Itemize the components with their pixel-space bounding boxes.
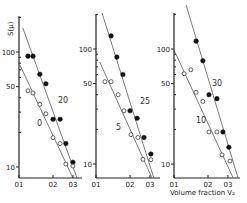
x-tick-label: 01	[170, 181, 179, 189]
open-data-point	[116, 93, 120, 97]
open-data-point	[64, 162, 68, 166]
open-data-point	[129, 133, 133, 137]
x-tick-label: 02	[126, 181, 135, 189]
figure: 1005010010203200S(µ)10050100102032551005…	[0, 0, 247, 203]
y-tick-label: 10	[161, 161, 170, 169]
filled-data-point	[142, 135, 147, 140]
open-data-point	[201, 99, 205, 103]
open-data-point	[189, 68, 193, 72]
open-data-point	[51, 136, 55, 140]
x-tick-label: 03	[68, 181, 77, 189]
open-data-point	[122, 109, 126, 113]
x-tick-label: 01	[92, 181, 101, 189]
y-tick-label: 50	[161, 80, 170, 88]
filled-data-point	[58, 117, 63, 122]
x-tick-label: 02	[49, 181, 58, 189]
x-tick-label: 02	[204, 181, 213, 189]
open-data-point	[103, 80, 107, 84]
y-tick-label: 100	[79, 46, 92, 54]
filled-data-point	[207, 92, 212, 97]
open-data-point	[31, 91, 35, 95]
filled-data-point	[128, 109, 133, 114]
filled-data-point	[227, 145, 232, 150]
open-data-point	[38, 102, 42, 106]
filled-data-point	[135, 116, 140, 121]
open-data-point	[71, 164, 75, 168]
filled-data-point	[115, 55, 120, 60]
fit-line	[174, 50, 233, 178]
filled-data-point	[121, 72, 126, 77]
filled-data-point	[215, 96, 220, 101]
filled-data-point	[194, 39, 199, 44]
x-tick-label: 01	[15, 181, 24, 189]
x-axis-label: Volume fraction V₂	[170, 189, 235, 197]
open-data-point	[194, 90, 198, 94]
open-data-point	[207, 130, 211, 134]
log-log-scatter-panels: 1005010010203200S(µ)10050100102032551005…	[0, 0, 247, 203]
y-tick-label: 50	[6, 83, 15, 91]
open-data-point	[182, 72, 186, 76]
filled-data-point	[31, 54, 36, 59]
fit-line	[23, 28, 77, 178]
x-tick-label: 03	[223, 181, 232, 189]
filled-data-point	[38, 72, 43, 77]
open-data-point	[44, 112, 48, 116]
series-label: 20	[58, 96, 68, 105]
series-label: 10	[196, 116, 206, 125]
y-tick-label: 50	[83, 80, 92, 88]
open-data-point	[26, 89, 30, 93]
filled-data-point	[64, 141, 69, 146]
filled-data-point	[221, 130, 226, 135]
open-data-point	[228, 159, 232, 163]
series-label: 25	[140, 97, 150, 106]
filled-data-point	[44, 81, 49, 86]
x-tick-label: 03	[145, 181, 154, 189]
filled-data-point	[109, 34, 114, 39]
y-tick-label: 100	[157, 46, 170, 54]
y-tick-label: 10	[6, 164, 15, 172]
y-axis-label: S(µ)	[7, 21, 15, 36]
open-data-point	[136, 135, 140, 139]
open-data-point	[58, 142, 62, 146]
fit-line	[186, 5, 238, 178]
series-label: 30	[212, 79, 222, 88]
filled-data-point	[149, 152, 154, 157]
y-tick-label: 100	[2, 49, 15, 57]
series-label: 5	[116, 123, 121, 132]
y-tick-label: 10	[83, 161, 92, 169]
open-data-point	[215, 130, 219, 134]
open-data-point	[109, 80, 113, 84]
open-data-point	[149, 158, 153, 162]
series-label: 0	[37, 119, 42, 128]
open-data-point	[141, 157, 145, 161]
open-data-point	[220, 153, 224, 157]
filled-data-point	[26, 54, 31, 59]
filled-data-point	[51, 117, 56, 122]
filled-data-point	[201, 58, 206, 63]
